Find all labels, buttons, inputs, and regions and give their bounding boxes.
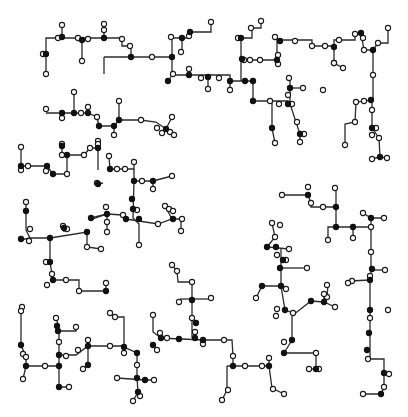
open-node <box>258 18 263 23</box>
filled-node <box>321 299 326 304</box>
open-node <box>321 291 326 296</box>
open-node <box>178 228 183 233</box>
open-node <box>242 363 247 368</box>
open-node <box>367 315 372 320</box>
filled-node <box>129 196 134 201</box>
open-node <box>192 329 197 334</box>
filled-node <box>368 97 373 102</box>
filled-node <box>350 224 355 229</box>
filled-node <box>250 78 255 83</box>
tree-network-diagram <box>0 0 408 417</box>
open-node <box>281 339 286 344</box>
open-node <box>84 244 89 249</box>
open-node <box>361 47 366 52</box>
filled-node <box>85 362 90 367</box>
filled-node <box>64 152 69 157</box>
filled-node <box>18 342 23 347</box>
filled-node <box>121 344 126 349</box>
filled-node <box>285 101 290 106</box>
open-node <box>189 279 194 284</box>
filled-node <box>44 163 49 168</box>
open-node <box>352 31 357 36</box>
open-node <box>104 219 109 224</box>
open-node <box>23 354 28 359</box>
open-node <box>18 144 23 149</box>
filled-node <box>163 126 168 131</box>
open-node <box>138 117 143 122</box>
filled-node <box>107 166 112 171</box>
filled-node <box>297 131 302 136</box>
open-node <box>111 132 116 137</box>
open-node <box>85 36 90 41</box>
open-node <box>361 98 366 103</box>
open-node <box>169 262 174 267</box>
filled-node <box>50 171 55 176</box>
open-node <box>114 166 119 171</box>
open-node <box>43 71 48 76</box>
filled-node <box>47 259 52 264</box>
open-node <box>332 304 337 309</box>
open-node <box>272 34 277 39</box>
open-node <box>198 75 203 80</box>
filled-node <box>59 110 64 115</box>
open-node <box>281 391 286 396</box>
open-node <box>25 163 30 168</box>
open-node <box>59 22 64 27</box>
filled-node <box>277 265 282 270</box>
filled-node <box>378 391 383 396</box>
open-node <box>360 391 365 396</box>
open-node <box>272 234 277 239</box>
open-node <box>221 337 226 342</box>
open-node <box>85 337 90 342</box>
filled-node <box>274 57 279 62</box>
open-node <box>227 87 232 92</box>
open-node <box>286 246 291 251</box>
open-node <box>297 139 302 144</box>
open-node <box>80 366 85 371</box>
open-node <box>151 377 156 382</box>
filled-node <box>18 236 23 241</box>
filled-node <box>104 211 109 216</box>
filled-node <box>187 29 192 34</box>
open-node <box>353 99 358 104</box>
filled-node <box>135 389 140 394</box>
open-node <box>382 267 387 272</box>
open-node <box>230 353 235 358</box>
open-node <box>78 110 83 115</box>
filled-node <box>278 283 283 288</box>
filled-node <box>176 336 181 341</box>
open-node <box>304 265 309 270</box>
open-node <box>324 282 329 287</box>
open-node <box>169 114 174 119</box>
filled-node <box>242 78 247 83</box>
open-node <box>63 353 68 358</box>
open-node <box>101 21 106 26</box>
open-node <box>98 246 103 251</box>
open-node <box>365 356 370 361</box>
filled-node <box>59 143 64 148</box>
filled-node <box>55 328 60 333</box>
filled-node <box>56 352 61 357</box>
filled-node <box>134 350 139 355</box>
filled-node <box>313 366 318 371</box>
open-node <box>259 363 264 368</box>
open-node <box>342 142 347 147</box>
open-node <box>277 222 282 227</box>
open-node <box>345 280 350 285</box>
open-node <box>385 307 390 312</box>
open-node <box>308 200 313 205</box>
open-node <box>18 308 23 313</box>
filled-node <box>23 208 28 213</box>
open-node <box>189 315 194 320</box>
filled-node <box>200 337 205 342</box>
open-node <box>225 387 230 392</box>
open-node <box>360 210 365 215</box>
filled-node <box>364 347 369 352</box>
open-node <box>81 152 86 157</box>
open-node <box>43 106 48 111</box>
filled-node <box>369 266 374 271</box>
open-node <box>150 312 155 317</box>
open-node <box>94 114 99 119</box>
filled-node <box>96 123 101 128</box>
filled-node <box>116 117 121 122</box>
